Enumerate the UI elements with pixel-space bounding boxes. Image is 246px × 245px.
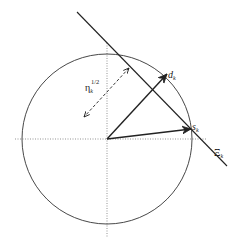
label-s-k: sk bbox=[192, 121, 199, 133]
diagram-canvas: dk sk Ξk ηk1/2 bbox=[0, 0, 246, 245]
hyperplane-line bbox=[77, 12, 227, 166]
vector-s-arrow bbox=[107, 129, 191, 139]
label-eta-k-half: ηk1/2 bbox=[85, 78, 99, 94]
label-d-k: dk bbox=[168, 69, 176, 81]
label-xi-k: Ξk bbox=[214, 147, 223, 159]
vector-d-arrow bbox=[107, 74, 167, 139]
